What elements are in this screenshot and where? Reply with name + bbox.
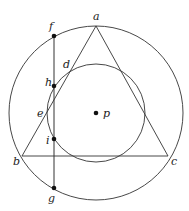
label-d: d — [63, 58, 70, 71]
label-i: i — [46, 134, 50, 147]
point-i — [52, 137, 57, 142]
label-f: f — [48, 20, 55, 33]
triangle-abc — [22, 26, 168, 156]
point-f — [52, 34, 57, 39]
point-g — [52, 186, 57, 191]
geometry-diagram: a b c d e f g h i p — [0, 0, 189, 211]
point-p — [94, 111, 99, 116]
point-h — [52, 84, 57, 89]
label-b: b — [13, 155, 20, 168]
label-a: a — [93, 10, 100, 23]
label-h: h — [45, 76, 52, 89]
label-p: p — [103, 107, 110, 120]
label-g: g — [48, 192, 55, 205]
label-c: c — [171, 155, 177, 168]
label-e: e — [37, 107, 44, 120]
